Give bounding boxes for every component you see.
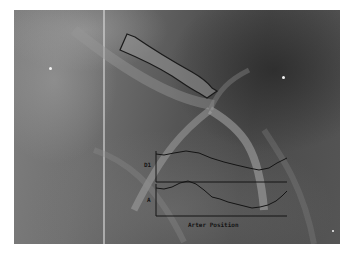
diameter-curve bbox=[156, 151, 287, 170]
profile-plots bbox=[14, 10, 340, 244]
marker-dot-bottom-right bbox=[332, 230, 334, 232]
area-axis-label: A bbox=[147, 196, 151, 203]
angiogram-image: D1 A Arter Position bbox=[14, 10, 340, 244]
x-axis-label: Arter Position bbox=[188, 221, 239, 228]
area-curve bbox=[156, 181, 287, 208]
diameter-axis-label: D1 bbox=[144, 161, 151, 168]
marker-dot-right bbox=[282, 76, 285, 79]
marker-dot-left bbox=[49, 67, 52, 70]
